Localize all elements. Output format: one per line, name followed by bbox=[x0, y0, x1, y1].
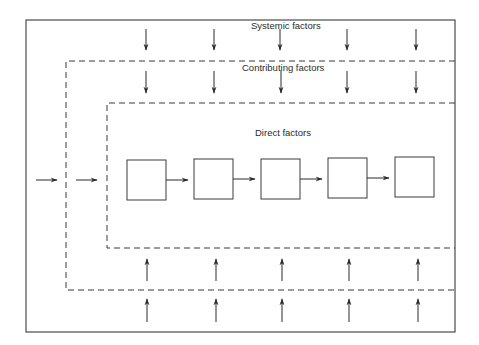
contributing-up-arrows bbox=[147, 259, 418, 281]
systemic-layer-border bbox=[26, 20, 455, 332]
systemic-factors-label: Systemic factors bbox=[251, 21, 321, 31]
process-box-3 bbox=[261, 159, 300, 199]
process-box-2 bbox=[194, 159, 233, 199]
direct-factors-label: Direct factors bbox=[255, 128, 311, 138]
systemic-down-arrows bbox=[146, 29, 416, 50]
contributing-factors-label: Contributing factors bbox=[242, 63, 324, 73]
process-box-4 bbox=[328, 158, 367, 198]
contributing-down-arrows bbox=[146, 71, 416, 93]
process-connectors bbox=[166, 178, 389, 180]
direct-layer-border bbox=[107, 103, 455, 248]
systemic-up-arrows bbox=[147, 299, 418, 322]
process-box-5 bbox=[395, 157, 434, 197]
process-box-1 bbox=[127, 160, 166, 200]
